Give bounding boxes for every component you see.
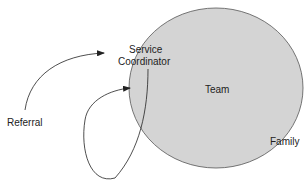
referral-label: Referral [7,117,43,128]
service-coordinator-label-line1: Service [129,44,163,55]
referral-arrow [25,53,104,110]
family-label: Family [270,136,299,147]
team-label: Team [205,84,229,95]
service-coordination-diagram: Referral Service Coordinator Team Family [0,0,307,187]
service-coordinator-label-line2: Coordinator [118,56,171,67]
